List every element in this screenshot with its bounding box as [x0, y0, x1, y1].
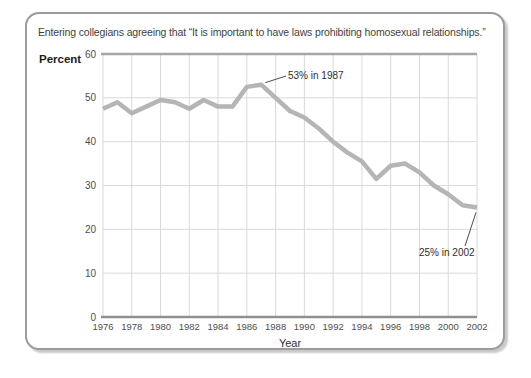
x-tick-label-1998: 1998: [404, 321, 434, 332]
x-axis-title: Year: [260, 337, 320, 349]
chart-title: Entering collegians agreeing that “It is…: [38, 26, 496, 38]
figure-page: 1976197819801982198419861988199019921994…: [0, 0, 531, 378]
x-tick-label-1980: 1980: [146, 321, 176, 332]
x-tick-label-1996: 1996: [376, 321, 406, 332]
y-axis-title: Percent: [39, 53, 81, 65]
x-tick-label-2000: 2000: [433, 321, 463, 332]
y-tick-label-40: 40: [68, 136, 96, 147]
y-tick-label-0: 0: [68, 312, 96, 323]
x-tick-label-1988: 1988: [261, 321, 291, 332]
annotation-end-2002: 25% in 2002: [419, 247, 475, 258]
annotation-peak-1987: 53% in 1987: [288, 70, 344, 81]
y-tick-label-30: 30: [68, 180, 96, 191]
x-tick-label-1990: 1990: [289, 321, 319, 332]
x-tick-label-1986: 1986: [232, 321, 262, 332]
y-tick-label-50: 50: [68, 92, 96, 103]
x-tick-label-1976: 1976: [88, 321, 118, 332]
chart-panel: [25, 12, 505, 350]
x-tick-label-2002: 2002: [462, 321, 492, 332]
x-tick-label-1984: 1984: [203, 321, 233, 332]
x-tick-label-1994: 1994: [347, 321, 377, 332]
x-tick-label-1992: 1992: [318, 321, 348, 332]
y-tick-label-10: 10: [68, 268, 96, 279]
x-tick-label-1978: 1978: [117, 321, 147, 332]
y-tick-label-20: 20: [68, 224, 96, 235]
x-tick-label-1982: 1982: [174, 321, 204, 332]
